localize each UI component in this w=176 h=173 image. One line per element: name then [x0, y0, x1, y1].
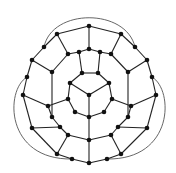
graph-edge — [111, 34, 121, 54]
graph-edge — [23, 95, 48, 106]
graph-node — [70, 157, 75, 162]
graph-edge — [23, 95, 32, 128]
graph-node — [87, 93, 92, 98]
graph-node — [154, 93, 159, 98]
outer-arc — [14, 77, 72, 159]
graph-edge — [68, 83, 70, 99]
graph-node — [58, 125, 63, 130]
graph-node — [119, 152, 124, 157]
graph-edge — [70, 83, 89, 95]
graph-node — [77, 50, 82, 55]
graph-edge — [27, 60, 32, 77]
graph-node — [30, 126, 35, 131]
graph-node — [87, 24, 92, 29]
graph-node — [73, 110, 78, 115]
graph-edge — [52, 54, 68, 72]
outer-arc — [107, 77, 165, 159]
graph-node — [68, 81, 73, 86]
graph-node — [25, 75, 30, 80]
graph-node — [129, 104, 134, 109]
graph-edge — [57, 26, 89, 34]
graph-node — [102, 110, 107, 115]
graph-edge — [70, 73, 82, 83]
graph-node — [126, 115, 131, 120]
graph-node — [109, 52, 114, 57]
graph-node — [55, 152, 60, 157]
graph-edge — [89, 26, 121, 34]
graph-node — [110, 97, 115, 102]
graph-node — [30, 58, 35, 63]
graph-edge — [135, 47, 147, 60]
graph-edge — [32, 127, 60, 128]
graph-edge — [72, 159, 89, 163]
graph-node — [145, 58, 150, 63]
graph-edge — [68, 135, 89, 140]
graph-node — [66, 97, 71, 102]
graph-node — [96, 71, 101, 76]
graph-edge — [89, 135, 111, 140]
graph-edge — [57, 135, 68, 154]
graph-edge — [111, 135, 121, 154]
graph-node — [87, 115, 92, 120]
graph-node — [87, 47, 92, 52]
graph-edge — [109, 83, 112, 99]
graph-edge — [89, 112, 104, 117]
graph-node — [55, 32, 60, 37]
graph-node — [21, 93, 26, 98]
graph-node — [116, 125, 121, 130]
graph-edge — [128, 60, 147, 72]
graph-node — [119, 32, 124, 37]
graph-edge — [118, 127, 147, 128]
graph-diagram — [0, 0, 176, 173]
graph-node — [66, 133, 71, 138]
graph-edge — [32, 60, 52, 72]
graph-node — [105, 157, 110, 162]
graph-node — [145, 126, 150, 131]
graph-node — [150, 75, 155, 80]
graph-edge — [57, 34, 68, 54]
graph-node — [133, 45, 138, 50]
graph-edge — [147, 95, 156, 128]
graph-edge — [111, 54, 128, 72]
graph-edge — [89, 83, 109, 95]
graph-node — [42, 45, 47, 50]
graph-node — [98, 50, 103, 55]
graph-edge — [147, 60, 152, 77]
graph-edge — [32, 47, 44, 60]
graph-edge — [79, 52, 82, 73]
graph-node — [109, 133, 114, 138]
graph-node — [66, 52, 71, 57]
graph-node — [50, 115, 55, 120]
graph-node — [50, 70, 55, 75]
graph-node — [107, 81, 112, 86]
graph-edge — [131, 95, 156, 106]
graph-node — [46, 104, 51, 109]
graph-node — [126, 70, 131, 75]
graph-edge — [89, 159, 107, 163]
graph-edge — [98, 52, 100, 73]
graph-node — [87, 161, 92, 166]
graph-node — [80, 71, 85, 76]
graph-edge — [48, 99, 68, 106]
graph-node — [87, 138, 92, 143]
